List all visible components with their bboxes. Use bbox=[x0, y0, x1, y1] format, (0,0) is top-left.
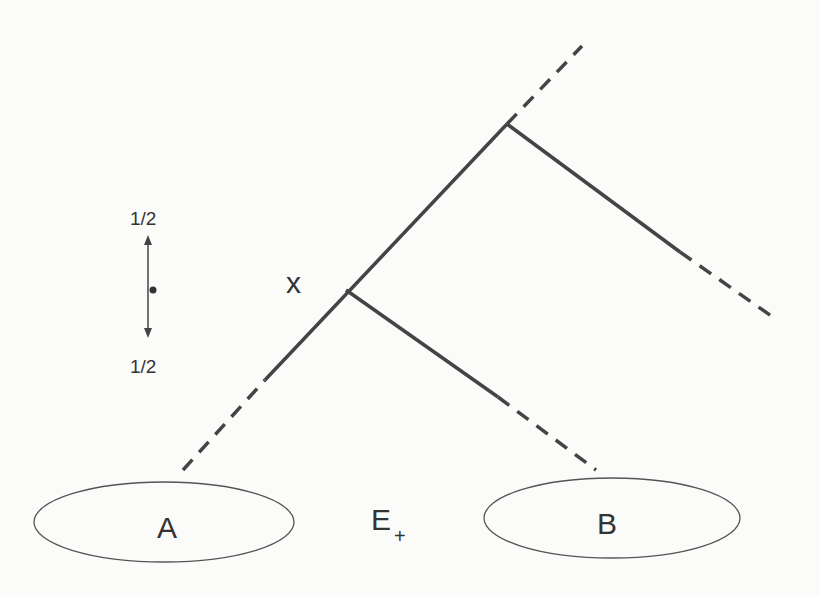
branch-upper-dashed bbox=[680, 252, 777, 320]
branch-upper-solid bbox=[507, 124, 680, 252]
region-e-subscript: + bbox=[394, 525, 406, 547]
half-bottom-label: 1/2 bbox=[130, 356, 156, 377]
point-dot bbox=[150, 287, 157, 294]
trunk-solid bbox=[265, 124, 507, 380]
region-a-label: A bbox=[157, 511, 177, 544]
tree-diagram: 1/2 1/2 x A B E + bbox=[0, 0, 820, 596]
branch-lower-solid bbox=[346, 290, 498, 397]
arrow-down-icon bbox=[144, 328, 152, 338]
trunk-dashed-lower bbox=[183, 380, 265, 470]
region-e-label: E bbox=[371, 503, 391, 536]
branch-lower-dashed bbox=[498, 397, 596, 470]
trunk-dashed-upper bbox=[507, 46, 582, 124]
arrow-up-icon bbox=[144, 235, 152, 245]
diagram-canvas: 1/2 1/2 x A B E + bbox=[0, 0, 820, 596]
region-b-label: B bbox=[597, 507, 617, 540]
point-x-label: x bbox=[286, 266, 301, 299]
half-top-label: 1/2 bbox=[130, 208, 156, 229]
